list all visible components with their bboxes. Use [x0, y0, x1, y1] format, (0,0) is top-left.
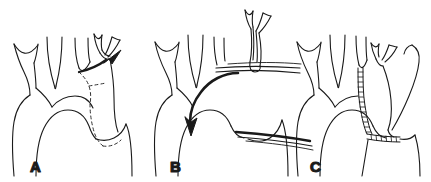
figure-background	[0, 0, 431, 182]
three-panel-illustration: A	[0, 0, 431, 182]
figure-container: A	[0, 0, 431, 182]
panel-b-label: B	[170, 158, 181, 175]
panel-a-label: A	[30, 158, 41, 175]
panel-c-label: C	[310, 158, 321, 175]
